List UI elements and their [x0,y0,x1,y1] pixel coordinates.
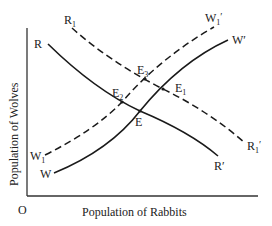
label-w1-prime: W1′ [205,11,223,27]
label-e2: E2 [112,86,123,102]
label-r-prime: R′ [214,159,225,173]
label-r: R [34,37,42,51]
label-r1-prime: R1′ [247,139,261,155]
label-w-prime: W′ [232,33,246,47]
point-e1 [161,87,164,90]
label-e: E [135,115,142,129]
curve-w [54,40,228,173]
rabbit-wolf-diagram: R R1 R′ R1′ W W1 W′ W1′ E E1 E2 E3 O Pop… [0,0,272,226]
y-axis-label: Population of Wolves [7,82,21,186]
origin-label: O [18,203,27,217]
label-e3: E3 [137,63,148,79]
label-r1: R1 [64,13,76,29]
label-e1: E1 [175,81,186,97]
label-w: W [40,167,52,181]
label-w1: W1 [30,149,45,165]
point-e [138,109,141,112]
x-axis-label: Population of Rabbits [82,205,187,219]
